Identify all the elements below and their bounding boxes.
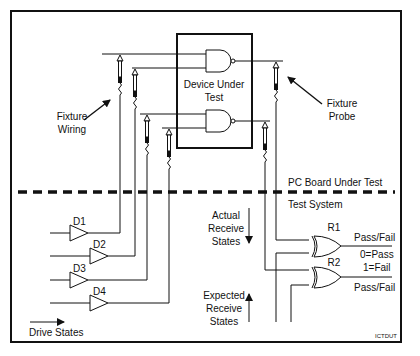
fixture-probe-4-icon — [166, 129, 172, 169]
fixture-probe-5-icon — [273, 62, 279, 102]
expected-label-2: Receive — [206, 303, 243, 314]
dut-label-line2: Test — [205, 92, 224, 103]
driver-d1-label: D1 — [73, 216, 86, 227]
actual-label-3: States — [212, 236, 240, 247]
pass-fail-label-1: Pass/Fail — [354, 232, 395, 243]
fixture-probe-arrow-icon — [288, 77, 322, 104]
actual-label-1: Actual — [212, 210, 240, 221]
nand-gate-top-icon — [206, 50, 235, 72]
actual-label-2: Receive — [208, 223, 245, 234]
expected-label-1: Expected — [203, 290, 245, 301]
legend-pass: 0=Pass — [360, 249, 394, 260]
driver-d4-label: D4 — [93, 286, 106, 297]
region-label-test-system: Test System — [288, 199, 342, 210]
xor-gate-r1-icon — [312, 236, 341, 257]
drive-states-label: Drive States — [29, 327, 83, 338]
fixture-wiring-label-2: Wiring — [58, 124, 86, 135]
receiver-r2-label: R2 — [328, 257, 341, 268]
driver-traces — [50, 233, 169, 303]
driver-d2-label: D2 — [93, 239, 106, 250]
driver-d3-label: D3 — [73, 263, 86, 274]
xor-gate-r2-icon — [312, 267, 341, 288]
receiver-r1-label: R1 — [328, 222, 341, 233]
legend-fail: 1=Fail — [363, 262, 391, 273]
driver-d4-icon — [90, 295, 108, 311]
fixture-wiring-arrow-icon — [84, 100, 110, 120]
fixture-probe-1-icon — [117, 55, 123, 95]
figure-id: ICTDUT — [375, 333, 397, 339]
fixture-probe-label-1: Fixture — [327, 98, 358, 109]
test-system-diagram: Device Under Test Fixture Wiring Fixture… — [0, 0, 420, 356]
driver-d3-icon — [70, 272, 88, 288]
fixture-probe-2-icon — [132, 69, 138, 109]
driver-d1-icon — [70, 225, 88, 241]
nand-gate-bottom-icon — [206, 110, 235, 132]
dut-label-line1: Device Under — [184, 79, 245, 90]
expected-label-3: States — [210, 316, 238, 327]
fixture-probe-label-2: Probe — [329, 111, 356, 122]
fixture-probe-3-icon — [144, 115, 150, 155]
driver-d2-icon — [90, 248, 108, 264]
region-label-pc-board: PC Board Under Test — [288, 177, 383, 188]
fixture-wiring-label-1: Fixture — [57, 111, 88, 122]
pass-fail-label-2: Pass/Fail — [354, 282, 395, 293]
fixture-probe-6-icon — [262, 122, 268, 162]
dut-input-traces — [102, 54, 283, 128]
